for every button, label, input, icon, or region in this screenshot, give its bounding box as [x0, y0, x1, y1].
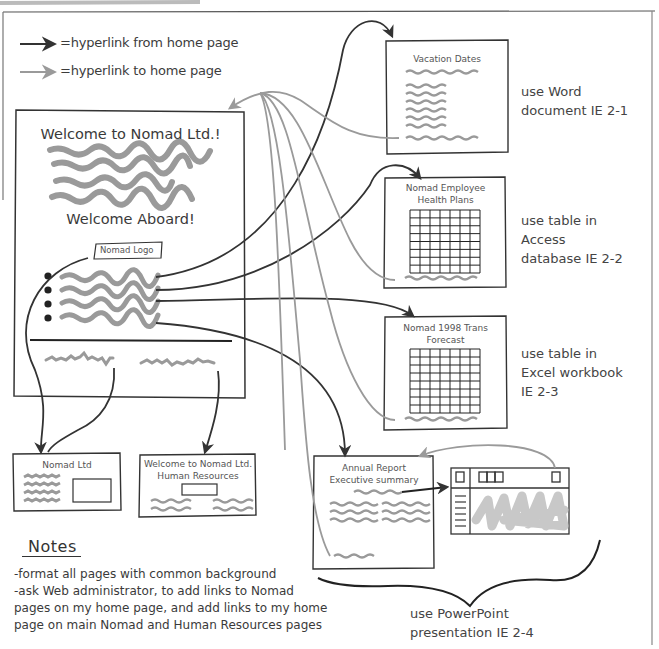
forecast-title-line1: Nomad 1998 Trans: [385, 322, 506, 334]
hr-title-line2: Human Resources: [140, 470, 256, 482]
home-page-title: Welcome to Nomad Ltd.!: [16, 126, 245, 142]
annual-report-note: use PowerPoint presentation IE 2-4: [410, 604, 534, 642]
notes-line-2: -ask Web administrator, to add links to …: [14, 583, 294, 600]
forecast-note: use table in Excel workbook IE 2-3: [521, 344, 623, 401]
logo-label: Nomad Logo: [100, 245, 154, 255]
legend-to-home: =hyperlink to home page: [60, 63, 222, 78]
notes-heading: Notes: [22, 537, 81, 557]
notes-line-1: -format all pages with common background: [14, 566, 276, 583]
notes-line-4: page on main Nomad and Human Resources p…: [14, 617, 322, 634]
hr-title-line1: Welcome to Nomad Ltd.: [140, 458, 256, 470]
nomad-ltd-title: Nomad Ltd: [13, 459, 121, 471]
forecast-title-line2: Forecast: [385, 334, 506, 346]
web-page-sketch-diagram: =hyperlink from home page =hyperlink to …: [0, 0, 659, 649]
notes-line-3: pages on my home page, and add links to …: [14, 600, 327, 617]
vacation-dates-note: use Word document IE 2-1: [521, 82, 628, 120]
legend-arrows: [20, 44, 54, 72]
presentation-window-sketch: [451, 468, 569, 534]
legend-from-home: =hyperlink from home page: [60, 35, 238, 50]
health-plans-note: use table in Access database IE 2-2: [521, 211, 623, 268]
health-plans-title-line1: Nomad Employee: [385, 182, 506, 194]
home-page-subtitle: Welcome Aboard!: [16, 211, 245, 227]
health-plans-title-line2: Health Plans: [385, 194, 506, 206]
grouping-brace: [318, 540, 600, 606]
vacation-dates-title: Vacation Dates: [386, 53, 508, 65]
annual-report-title-line1: Annual Report: [314, 462, 434, 474]
annual-report-title-line2: Executive summary: [314, 474, 434, 486]
